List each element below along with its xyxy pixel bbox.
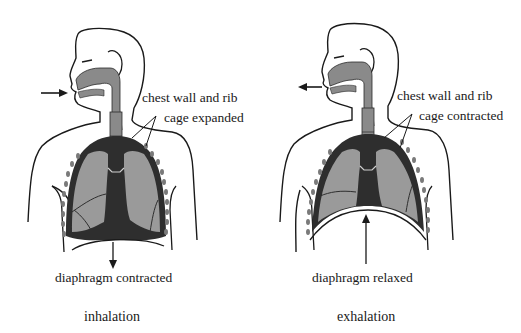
diaphragm-label: diaphragm contracted — [55, 270, 172, 286]
diaphragm-label: diaphragm relaxed — [312, 270, 413, 286]
chest-wall-label-line2: cage expanded — [164, 110, 244, 126]
chest-wall-label-line1: chest wall and rib — [142, 90, 238, 106]
diaphragm — [72, 240, 164, 250]
diaphragm-down-arrow-icon — [109, 242, 117, 269]
inhalation-figure: chest wall and rib cage expanded diaphra… — [0, 0, 260, 333]
inhalation-caption: inhalation — [84, 309, 140, 325]
airflow-in-arrow-icon — [41, 89, 68, 97]
exhalation-figure: chest wall and rib cage contracted diaph… — [260, 0, 520, 333]
exhalation-caption: exhalation — [337, 309, 395, 325]
chest-wall-label-line2: cage contracted — [419, 108, 503, 124]
chest-wall-label-line1: chest wall and rib — [397, 88, 493, 104]
diaphragm-up-arrow-icon — [362, 214, 370, 264]
airflow-out-arrow-icon — [298, 83, 322, 91]
